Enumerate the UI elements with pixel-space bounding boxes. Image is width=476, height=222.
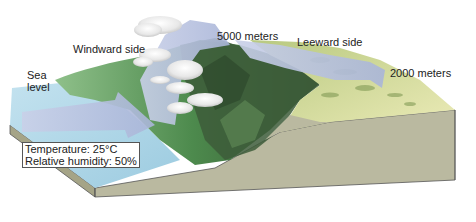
windward-side-label: Windward side (73, 43, 145, 55)
peak-altitude-label: 5000 meters (217, 30, 278, 42)
temperature-text: Temperature: 25°C (25, 143, 137, 155)
sea-level-label-line2: level (27, 81, 50, 93)
sea-level-label: Sea level (27, 69, 50, 93)
leeward-side-label: Leeward side (297, 36, 362, 48)
humidity-text: Relative humidity: 50% (25, 155, 137, 167)
leeward-altitude-label: 2000 meters (390, 67, 451, 79)
conditions-infobox: Temperature: 25°C Relative humidity: 50% (22, 142, 140, 168)
sea-level-label-line1: Sea (27, 69, 50, 81)
